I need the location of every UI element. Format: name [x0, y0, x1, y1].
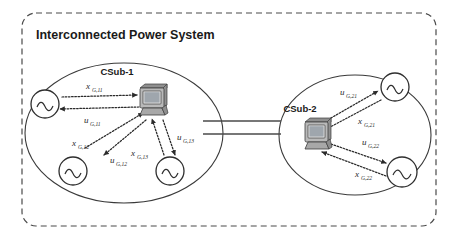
signal-arrow-x-g-12: [85, 113, 143, 148]
signal-label-x-g-13: x G,13: [130, 148, 148, 160]
svg-text:G,11: G,11: [90, 121, 101, 127]
svg-text:x: x: [71, 138, 76, 148]
csub-2-label: CSub-2: [283, 103, 316, 114]
svg-text:G,12: G,12: [78, 144, 89, 150]
signal-arrow-x-g-11: [62, 95, 137, 97]
csub-1-label: CSub-1: [100, 66, 134, 77]
signal-arrow-u-g-11: [60, 107, 139, 109]
computer-monitor-icon-csub-2: [305, 118, 332, 149]
signal-arrow-u-g-12: [104, 120, 146, 155]
svg-text:x: x: [85, 81, 90, 91]
diagram-title: Interconnected Power System: [36, 28, 215, 42]
ac-generator-icon-gen-22: [387, 157, 417, 187]
svg-text:G,11: G,11: [92, 87, 103, 93]
signal-arrow-x-g-13: [152, 119, 164, 155]
svg-text:G,22: G,22: [361, 175, 372, 181]
svg-text:x: x: [354, 169, 359, 179]
signal-label-u-g-11: u G,11: [84, 115, 101, 127]
signal-label-u-g-21: u G,21: [340, 87, 357, 99]
svg-text:u: u: [177, 132, 182, 142]
signal-label-x-g-12: x G,12: [71, 138, 89, 150]
svg-text:G,12: G,12: [116, 161, 127, 167]
signal-arrow-u-g-13: [163, 120, 175, 155]
svg-text:u: u: [340, 87, 345, 97]
power-system-diagram: Interconnected Power System CSub-1 CSub-…: [0, 0, 458, 241]
svg-text:x: x: [130, 148, 135, 158]
signal-label-u-g-13: u G,13: [177, 132, 194, 144]
ac-generator-icon-gen-11: [31, 90, 59, 118]
computer-monitor-icon-csub-1: [140, 84, 168, 115]
signal-label-x-g-11: x G,11: [85, 81, 103, 93]
svg-text:G,22: G,22: [368, 143, 379, 149]
signal-label-x-g-22: x G,22: [354, 169, 372, 181]
ac-generator-icon-gen-13: [156, 157, 184, 185]
svg-text:G,13: G,13: [137, 154, 148, 160]
signal-arrow-x-g-22: [322, 152, 386, 176]
svg-text:u: u: [110, 155, 115, 165]
signal-label-u-g-12: u G,12: [110, 155, 127, 167]
signal-label-u-g-22: u G,22: [362, 137, 379, 149]
svg-text:G,21: G,21: [346, 93, 357, 99]
svg-text:u: u: [84, 115, 89, 125]
svg-text:G,13: G,13: [183, 138, 194, 144]
svg-text:G,21: G,21: [364, 122, 375, 128]
signal-label-x-g-21: x G,21: [357, 116, 375, 128]
ac-generator-icon-gen-12: [59, 157, 87, 185]
svg-text:u: u: [362, 137, 367, 147]
csub-1-boundary: [25, 63, 223, 203]
ac-generator-icon-gen-21: [381, 73, 409, 101]
tie-line: [203, 121, 281, 134]
svg-text:x: x: [357, 116, 362, 126]
